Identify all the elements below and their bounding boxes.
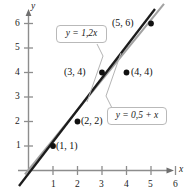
callout-line-0-5-plus-x: y = 0,5 + x	[107, 107, 167, 125]
y-axis	[24, 9, 33, 172]
x-tick-label-3: 3	[99, 180, 104, 190]
data-point-2-2	[75, 119, 81, 125]
graph-figure: y x 6 5 4 3 2 1 1 2 3 4 5 6 (1, 1) (2, 2…	[0, 0, 191, 196]
point-label-3-4: (3, 4)	[64, 67, 86, 77]
y-tick-label-5: 5	[15, 43, 20, 53]
y-tick-label-4: 4	[15, 68, 20, 78]
point-label-5-6: (5, 6)	[112, 18, 134, 28]
x-tick-label-6: 6	[173, 180, 178, 190]
y-tick-label-6: 6	[15, 19, 20, 29]
callout-line-1-2x: y = 1,2x	[56, 25, 107, 43]
x-tick-label-4: 4	[124, 180, 129, 190]
point-label-4-4: (4, 4)	[131, 67, 153, 77]
x-tick-label-1: 1	[51, 180, 56, 190]
y-tick-label-1: 1	[16, 141, 21, 151]
y-tick-label-2: 2	[15, 117, 20, 127]
x-axis	[18, 166, 176, 175]
x-axis-label: x	[179, 165, 183, 175]
data-point-4-4	[124, 70, 130, 76]
y-tick-label-3: 3	[15, 92, 20, 102]
data-point-5-6	[148, 21, 154, 27]
data-point-3-4	[99, 70, 105, 76]
y-axis-label: y	[31, 2, 35, 12]
point-label-1-1: (1, 1)	[56, 141, 78, 151]
x-tick-label-5: 5	[148, 180, 153, 190]
point-label-2-2: (2, 2)	[81, 116, 103, 126]
x-tick-label-2: 2	[75, 180, 80, 190]
